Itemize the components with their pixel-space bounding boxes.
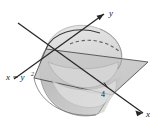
x-axis-label: x (145, 109, 150, 119)
surface-equation-base: x = y (5, 72, 25, 82)
figure-container: y x 4 x = y 2 (0, 0, 160, 127)
surface-equation-exponent: 2 (31, 71, 34, 77)
math-diagram-3d: y x 4 x = y 2 (0, 0, 160, 127)
y-axis-label: y (108, 8, 113, 18)
x-tick-label-4: 4 (101, 90, 105, 99)
